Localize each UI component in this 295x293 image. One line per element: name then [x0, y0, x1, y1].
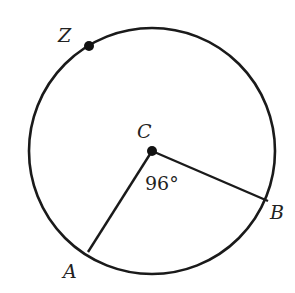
- label-a: A: [61, 260, 77, 282]
- label-b: B: [269, 201, 284, 223]
- label-z: Z: [57, 24, 72, 46]
- radius-ca: [88, 151, 152, 252]
- point-z-marker: [84, 41, 94, 51]
- geometry-diagram: Z C 96° B A: [0, 0, 295, 293]
- angle-label: 96°: [145, 172, 179, 194]
- center-point-c: [147, 146, 157, 156]
- label-c: C: [137, 120, 152, 142]
